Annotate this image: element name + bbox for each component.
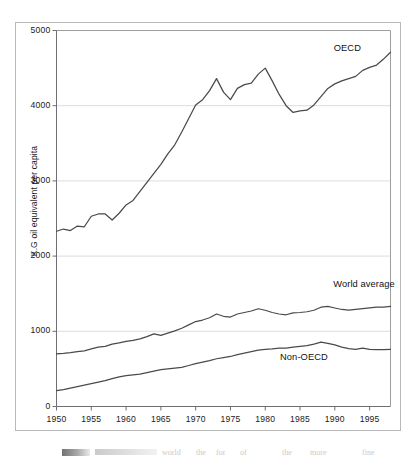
series-line-non-oecd xyxy=(57,342,391,391)
caption-strip: worldtheforofthemorefine xyxy=(0,447,417,456)
y-tick-label-1000: 1000 xyxy=(31,325,51,335)
series-label-non-oecd: Non-OECD xyxy=(280,352,328,362)
caption-fragment-1: the xyxy=(196,448,206,456)
y-tick-label-5000: 5000 xyxy=(31,25,51,35)
caption-fragment-3: of xyxy=(240,448,247,456)
caption-swatch-light xyxy=(95,449,157,455)
caption-fragment-2: for xyxy=(216,448,225,456)
y-tick-label-0: 0 xyxy=(46,401,51,411)
y-tick-label-4000: 4000 xyxy=(31,100,51,110)
caption-fragment-6: fine xyxy=(362,448,374,456)
series-label-oecd: OECD xyxy=(334,43,361,53)
caption-fragment-5: more xyxy=(310,448,326,456)
series-label-world-average: World average xyxy=(333,279,395,289)
line-chart-canvas xyxy=(0,0,417,456)
series-line-oecd xyxy=(57,52,391,231)
caption-fragment-4: the xyxy=(282,448,292,456)
chart-screenshot: K.G oil equivalent per capita 0100020003… xyxy=(0,0,417,456)
caption-swatch-dark xyxy=(62,449,90,456)
y-tick-label-2000: 2000 xyxy=(31,250,51,260)
caption-fragment-0: world xyxy=(162,448,181,456)
y-tick-label-3000: 3000 xyxy=(31,175,51,185)
series-lines xyxy=(57,52,391,390)
x-tick-label-1995: 1995 xyxy=(350,414,390,424)
plot-axes xyxy=(57,31,391,407)
